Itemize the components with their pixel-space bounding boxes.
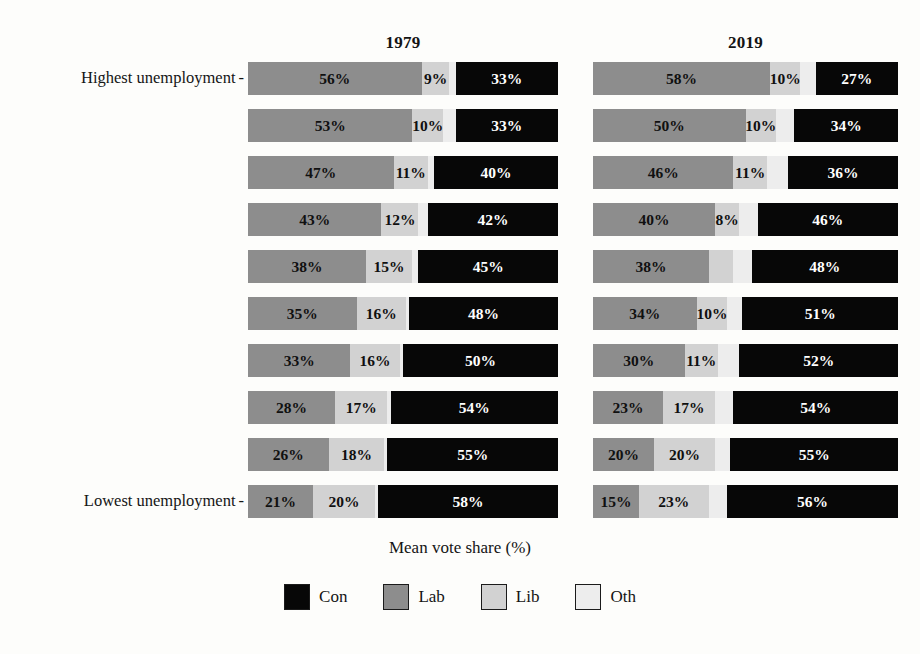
bar-segment-oth: [709, 485, 727, 518]
bar-row: 15%23%56%: [593, 485, 898, 518]
bar-segment-oth: [739, 203, 757, 236]
bar-segment-lab: 26%: [248, 438, 329, 471]
bar-segment-con: 34%: [794, 109, 898, 142]
panel-title-1979: 1979: [248, 33, 558, 53]
bar-segment-label: 47%: [305, 164, 336, 182]
bar-segment-label: 17%: [346, 399, 377, 417]
bar-row: 28%17%54%: [248, 391, 558, 424]
bar-segment-lab: 58%: [593, 62, 770, 95]
bar-segment-lab: 15%: [593, 485, 639, 518]
bar-segment-lib: 9%: [422, 62, 450, 95]
bar-segment-label: 40%: [480, 164, 511, 182]
bar-segment-label: 55%: [457, 446, 488, 464]
bar-segment-con: 48%: [409, 297, 558, 330]
bar-segment-lib: 10%: [770, 62, 801, 95]
bar-segment-lab: 38%: [248, 250, 366, 283]
bar-segment-con: 50%: [403, 344, 558, 377]
bar-segment-con: 45%: [418, 250, 558, 283]
bar-row: 38%15%45%: [248, 250, 558, 283]
bar-segment-con: 36%: [788, 156, 898, 189]
legend-item-con[interactable]: Con: [284, 584, 347, 610]
bar-segment-label: 11%: [735, 164, 765, 182]
bar-segment-con: 27%: [816, 62, 898, 95]
bar-segment-label: 55%: [799, 446, 830, 464]
bar-segment-label: 10%: [412, 117, 443, 135]
bar-segment-con: 46%: [758, 203, 898, 236]
bar-segment-label: 38%: [291, 258, 322, 276]
bar-segment-lib: 8%: [715, 203, 739, 236]
bar-segment-label: 12%: [384, 211, 415, 229]
legend-item-lib[interactable]: Lib: [481, 584, 540, 610]
bar-segment-oth: [718, 344, 739, 377]
bar-segment-lib: 17%: [663, 391, 715, 424]
bar-segment-label: 33%: [491, 117, 522, 135]
bar-row: 33%16%50%: [248, 344, 558, 377]
bar-segment-label: 42%: [477, 211, 508, 229]
bar-segment-oth: [443, 109, 455, 142]
bar-segment-lib: 16%: [350, 344, 400, 377]
bar-segment-label: 43%: [299, 211, 330, 229]
bar-segment-lab: 23%: [593, 391, 663, 424]
bar-segment-label: 50%: [465, 352, 496, 370]
bar-row: 43%12%42%: [248, 203, 558, 236]
bar-segment-lib: 20%: [654, 438, 715, 471]
bar-row: 53%10%33%: [248, 109, 558, 142]
legend-item-oth[interactable]: Oth: [575, 584, 636, 610]
bar-segment-lib: 15%: [366, 250, 413, 283]
bar-segment-label: 34%: [629, 305, 660, 323]
bar-segment-con: 56%: [727, 485, 898, 518]
y-tick-dash: -: [239, 68, 245, 88]
bar-segment-label: 21%: [265, 493, 296, 511]
bar-row: 47%11%40%: [248, 156, 558, 189]
bar-segment-label: 35%: [287, 305, 318, 323]
bar-segment-label: 11%: [396, 164, 426, 182]
legend-item-lab[interactable]: Lab: [383, 584, 444, 610]
bar-segment-label: 23%: [658, 493, 689, 511]
bar-segment-lib: 11%: [685, 344, 719, 377]
bar-segment-con: 54%: [733, 391, 898, 424]
bar-row: 40%8%46%: [593, 203, 898, 236]
bar-segment-lab: 33%: [248, 344, 350, 377]
legend-swatch-con-icon: [284, 584, 310, 610]
bar-segment-label: 10%: [696, 305, 727, 323]
bar-segment-label: 40%: [639, 211, 670, 229]
bar-segment-lab: 38%: [593, 250, 709, 283]
bar-segment-lab: 35%: [248, 297, 357, 330]
bar-segment-lab: 56%: [248, 62, 422, 95]
bar-segment-label: 17%: [674, 399, 705, 417]
bar-segment-lib: 10%: [412, 109, 443, 142]
bar-segment-label: 8%: [716, 211, 739, 229]
legend-label: Lib: [516, 587, 540, 607]
bar-segment-lab: 34%: [593, 297, 697, 330]
bar-segment-label: 48%: [809, 258, 840, 276]
bar-segment-label: 38%: [635, 258, 666, 276]
bar-segment-label: 16%: [360, 352, 391, 370]
bar-segment-label: 10%: [770, 70, 801, 88]
bar-row: 34%10%51%: [593, 297, 898, 330]
bar-segment-label: 52%: [803, 352, 834, 370]
y-tick-dash: -: [239, 491, 245, 511]
bar-segment-lab: 21%: [248, 485, 313, 518]
bar-row: 38%48%: [593, 250, 898, 283]
bar-segment-label: 33%: [284, 352, 315, 370]
bar-segment-lab: 28%: [248, 391, 335, 424]
bar-segment-lib: 10%: [697, 297, 728, 330]
bar-segment-lab: 30%: [593, 344, 685, 377]
bar-segment-oth: [715, 438, 730, 471]
bar-segment-label: 23%: [613, 399, 644, 417]
legend-label: Con: [319, 587, 347, 607]
bar-segment-lab: 47%: [248, 156, 394, 189]
bar-segment-label: 46%: [812, 211, 843, 229]
bar-row: 58%10%27%: [593, 62, 898, 95]
y-tick-label: Lowest unemployment-: [84, 491, 244, 511]
bar-segment-oth: [727, 297, 742, 330]
bar-segment-oth: [767, 156, 788, 189]
bar-row: 30%11%52%: [593, 344, 898, 377]
bar-segment-label: 54%: [800, 399, 831, 417]
bar-row: 20%20%55%: [593, 438, 898, 471]
chart-legend: ConLabLibOth: [0, 584, 920, 610]
bar-segment-label: 58%: [453, 493, 484, 511]
bar-segment-lib: 10%: [746, 109, 777, 142]
y-tick-label: Highest unemployment-: [81, 68, 244, 88]
bar-segment-label: 56%: [797, 493, 828, 511]
